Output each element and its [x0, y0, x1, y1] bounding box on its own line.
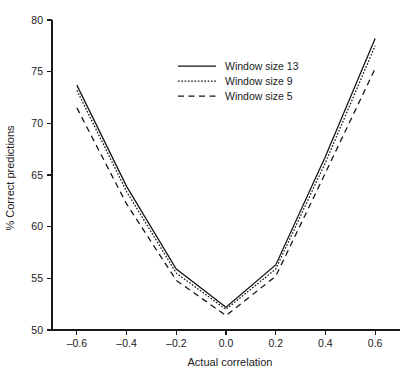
x-tick-label: 0.2	[268, 337, 283, 349]
legend-label: Window size 5	[225, 90, 293, 102]
x-axis-title: Actual correlation	[188, 356, 273, 368]
x-tick-label: –0.2	[166, 337, 187, 349]
x-tick-label: 0.4	[318, 337, 333, 349]
y-tick-label: 65	[31, 169, 43, 181]
y-tick-label: 50	[31, 324, 43, 336]
x-tick-label: –0.6	[67, 337, 88, 349]
legend-label: Window size 13	[225, 60, 299, 72]
x-tick-label: 0.0	[219, 337, 234, 349]
y-axis-title: % Correct predictions	[4, 125, 16, 231]
y-tick-label: 75	[31, 65, 43, 77]
chart-figure: 50556065707580 –0.6–0.4–0.20.00.20.40.6 …	[0, 0, 414, 373]
series-line	[77, 69, 375, 316]
y-axis-ticks: 50556065707580	[31, 14, 52, 336]
y-tick-label: 80	[31, 14, 43, 26]
x-axis-ticks: –0.6–0.4–0.20.00.20.40.6	[67, 330, 383, 349]
y-tick-label: 55	[31, 272, 43, 284]
legend-label: Window size 9	[225, 75, 293, 87]
y-tick-label: 60	[31, 220, 43, 232]
x-tick-label: 0.6	[368, 337, 383, 349]
chart-legend: Window size 13Window size 9Window size 5	[178, 60, 299, 102]
y-tick-label: 70	[31, 117, 43, 129]
line-chart: 50556065707580 –0.6–0.4–0.20.00.20.40.6 …	[0, 0, 414, 373]
x-tick-label: –0.4	[116, 337, 137, 349]
